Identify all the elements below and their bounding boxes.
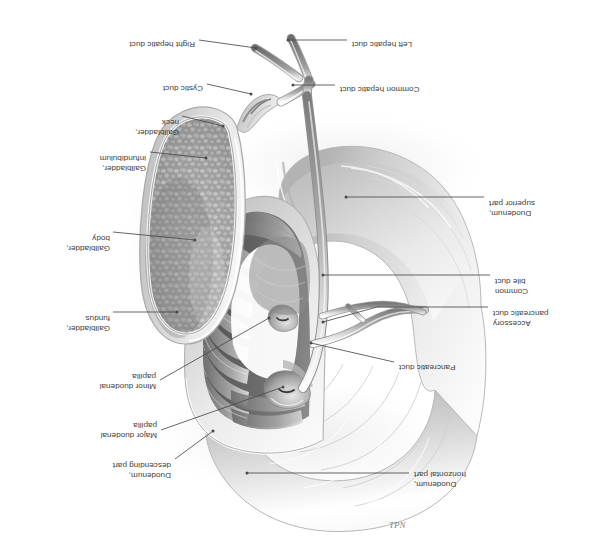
leader-endpoint-accessory-pancreatic-duct (322, 321, 325, 324)
label-text-line: Duodenum, (414, 479, 466, 489)
leader-endpoint-duodenum-descending-part (212, 430, 215, 433)
leader-endpoint-pancreatic-duct (310, 342, 313, 345)
leader-endpoint-left-hepatic-duct (287, 39, 290, 42)
leader-endpoint-common-hepatic-duct (292, 84, 295, 87)
label-text-line: superior part (489, 198, 535, 208)
label-text-line: horizontal part (414, 469, 466, 479)
leader-endpoint-minor-duodenal-papilla (268, 317, 271, 320)
label-text-line: Gallbladder, (100, 163, 146, 173)
label-text-line: pancreatic duct (493, 308, 549, 318)
label-gallbladder-infundibulum: Gallbladder,infundibulum (100, 153, 146, 173)
leader-endpoint-gallbladder-fundus (176, 311, 179, 314)
label-common-bile-duct: Commonbile duct (495, 276, 528, 296)
label-duodenum-superior-part: Duodenum,superior part (489, 198, 535, 218)
label-text-line: Common hepatic duct (340, 84, 420, 94)
label-accessory-pancreatic-duct: Accessorypancreatic duct (493, 308, 549, 328)
leader-endpoint-gallbladder-body (194, 239, 197, 242)
label-common-hepatic-duct: Common hepatic duct (340, 84, 420, 94)
label-pancreatic-duct: Pancreatic duct (399, 362, 455, 372)
label-text-line: Gallbladder, (66, 323, 110, 333)
label-text-line: Major duodenal (101, 430, 157, 440)
label-minor-duodenal-papilla: Minor duodenalpapilla (100, 371, 156, 391)
leader-minor-duodenal-papilla (160, 318, 269, 380)
label-text-line: papilla (100, 371, 156, 381)
label-text-line: Cystic duct (163, 83, 203, 93)
leader-major-duodenal-papilla (161, 387, 283, 430)
label-text-line: bile duct (495, 276, 528, 286)
leader-gallbladder-neck (182, 116, 223, 126)
label-text-line: Pancreatic duct (399, 362, 455, 372)
leader-duodenum-descending-part (175, 431, 213, 459)
illustration-plate: TPN Duodenum,horizontal partPancreatic d… (0, 0, 599, 558)
label-text-line: Right hepatic duct (129, 39, 195, 49)
leader-endpoint-right-hepatic-duct (255, 47, 258, 50)
leader-pancreatic-duct (311, 343, 394, 362)
leader-endpoint-gallbladder-neck (222, 125, 225, 128)
label-text-line: infundibulum (100, 153, 146, 163)
label-text-line: papilla (101, 420, 157, 430)
label-text-line: Left hepatic duct (352, 39, 412, 49)
leader-gallbladder-body (113, 232, 195, 240)
label-gallbladder-fundus: Gallbladder,fundus (66, 313, 110, 333)
label-duodenum-horizontal-part: Duodenum,horizontal part (414, 469, 466, 489)
label-text-line: Duodenum, (113, 470, 171, 480)
label-text-line: Gallbladder, (66, 243, 110, 253)
label-text-line: neck (135, 117, 179, 127)
leader-endpoint-cystic-duct (250, 93, 253, 96)
label-text-line: Gallbladder, (135, 127, 179, 137)
leader-endpoint-duodenum-horizontal-part (246, 472, 249, 475)
leader-endpoint-gallbladder-infundibulum (205, 157, 208, 160)
label-right-hepatic-duct: Right hepatic duct (129, 39, 195, 49)
label-gallbladder-body: Gallbladder,body (66, 233, 110, 253)
leader-cystic-duct (207, 84, 251, 94)
label-text-line: Common (495, 286, 528, 296)
label-text-line: Accessory (493, 318, 549, 328)
label-text-line: body (66, 233, 110, 243)
leader-accessory-pancreatic-duct (323, 307, 488, 322)
label-text-line: descending part (113, 460, 171, 470)
leader-endpoint-duodenum-superior-part (345, 196, 348, 199)
label-major-duodenal-papilla: Major duodenalpapilla (101, 420, 157, 440)
label-text-line: fundus (66, 313, 110, 323)
leader-right-hepatic-duct (199, 40, 256, 48)
label-gallbladder-neck: Gallbladder,neck (135, 117, 179, 137)
leader-gallbladder-infundibulum (150, 152, 206, 158)
label-text-line: Duodenum, (489, 208, 535, 218)
leader-endpoint-major-duodenal-papilla (282, 386, 285, 389)
label-duodenum-descending-part: Duodenum,descending part (113, 460, 171, 480)
label-cystic-duct: Cystic duct (163, 83, 203, 93)
label-text-line: Minor duodenal (100, 381, 156, 391)
leader-endpoint-common-bile-duct (322, 274, 325, 277)
label-left-hepatic-duct: Left hepatic duct (352, 39, 412, 49)
